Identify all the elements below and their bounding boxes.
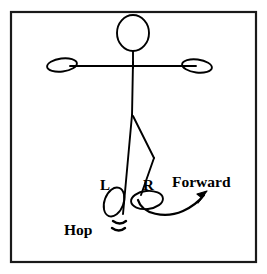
left-hand-icon bbox=[46, 57, 77, 74]
hop-motion-line-1 bbox=[113, 221, 126, 224]
hop-motion-line-2 bbox=[112, 228, 125, 231]
left-foot-label: L bbox=[100, 177, 110, 193]
right-foot-label: R bbox=[143, 177, 154, 193]
forward-arrow-curve bbox=[138, 195, 204, 215]
hop-motion-lines bbox=[112, 221, 126, 231]
right-leg-thigh-line bbox=[133, 116, 154, 158]
stick-figure-diagram: L R Hop Forward bbox=[0, 0, 267, 274]
frame-border bbox=[11, 12, 256, 262]
diagram-canvas: L R Hop Forward bbox=[0, 0, 267, 274]
forward-arrow bbox=[138, 191, 207, 215]
forward-label: Forward bbox=[172, 173, 231, 190]
head-icon bbox=[117, 15, 149, 51]
torso-line bbox=[132, 62, 133, 116]
hop-label: Hop bbox=[64, 221, 92, 238]
